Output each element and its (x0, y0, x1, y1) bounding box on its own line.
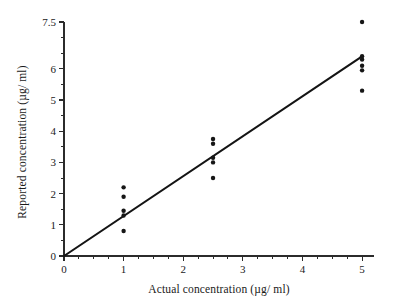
y-axis-tick-labels: 01234567.5 (42, 16, 56, 262)
x-tick-label: 2 (180, 263, 186, 275)
x-axis-tick-labels: 012345 (61, 263, 365, 275)
data-point (121, 195, 125, 199)
data-point (360, 20, 364, 24)
data-point (360, 88, 364, 92)
data-point (360, 68, 364, 72)
data-point (121, 229, 125, 233)
x-tick-label: 5 (359, 263, 365, 275)
data-point (121, 209, 125, 213)
y-tick-label: 6 (51, 63, 57, 75)
data-point (211, 156, 215, 160)
y-tick-label: 2 (51, 188, 57, 200)
data-points (121, 20, 364, 233)
y-tick-label: 3 (51, 156, 57, 168)
data-point (360, 57, 364, 61)
data-point (211, 160, 215, 164)
x-tick-label: 1 (121, 263, 127, 275)
y-tick-label: 5 (51, 94, 57, 106)
x-tick-label: 0 (61, 263, 67, 275)
x-tick-label: 4 (300, 263, 306, 275)
data-point (121, 213, 125, 217)
x-tick-label: 3 (240, 263, 246, 275)
chart-figure: Reported concentration (µg/ ml) Actual c… (0, 0, 395, 305)
data-point (211, 137, 215, 141)
y-tick-label: 4 (51, 125, 57, 137)
y-axis-major-ticks (59, 22, 64, 256)
data-point (211, 141, 215, 145)
data-point (211, 176, 215, 180)
data-point (121, 185, 125, 189)
y-tick-label: 7.5 (42, 16, 56, 28)
scatter-plot-canvas: 01234567.5 012345 (0, 0, 395, 305)
data-point (360, 63, 364, 67)
y-tick-label: 0 (51, 250, 57, 262)
y-tick-label: 1 (51, 219, 57, 231)
